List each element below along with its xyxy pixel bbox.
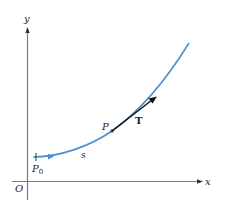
y-axis-label: y: [23, 13, 30, 24]
x-axis: [12, 179, 203, 183]
arc-length-label: s: [81, 150, 86, 160]
x-axis-label: x: [205, 176, 211, 187]
y-axis-arrow-icon: [25, 27, 29, 33]
point-p-label: P: [101, 121, 109, 132]
x-axis-arrow-icon: [197, 179, 203, 183]
start-point-label: P0: [31, 163, 43, 176]
curve: [33, 43, 189, 157]
tangent-label: T: [135, 115, 143, 126]
tangent-vector-diagram: y x O P0 s P T: [0, 0, 231, 204]
origin-label: O: [15, 183, 23, 194]
y-axis: [25, 27, 29, 200]
